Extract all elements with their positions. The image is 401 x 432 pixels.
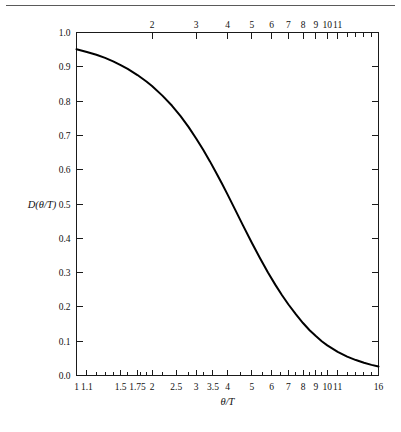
- debye-function-chart: 11.11.51.7522.533.5456789101116 23456789…: [0, 0, 401, 432]
- x-tick-label-top: 3: [194, 20, 199, 30]
- y-tick-label: 0.6: [59, 165, 71, 175]
- y-tick-label: 1.0: [59, 28, 71, 38]
- x-tick-label-top: 8: [301, 20, 306, 30]
- debye-curve-path: [77, 49, 379, 366]
- x-tick-label: 6: [269, 382, 274, 392]
- x-tick-label-top: 4: [225, 20, 230, 30]
- x-tick-label-top: 5: [249, 20, 254, 30]
- x-tick-label: 8: [301, 382, 306, 392]
- x-axis-bottom-ticks: [77, 370, 379, 376]
- x-tick-label: 11: [333, 382, 342, 392]
- x-tick-label: 1.1: [81, 382, 93, 392]
- y-tick-label: 0.1: [59, 337, 71, 347]
- x-tick-label-top: 10: [323, 20, 333, 30]
- y-tick-label: 0.9: [59, 62, 71, 72]
- x-tick-label: 3: [194, 382, 199, 392]
- x-axis-bottom-tick-labels: 11.11.51.7522.533.5456789101116: [74, 382, 383, 392]
- y-axis-title: D(θ/T): [27, 199, 57, 211]
- y-axis-tick-labels: 0.00.10.20.30.40.50.60.70.80.91.0: [59, 28, 71, 381]
- y-tick-label: 0.0: [59, 371, 71, 381]
- x-tick-label: 4: [225, 382, 230, 392]
- page-top-rule: [6, 5, 395, 6]
- y-tick-label: 0.8: [59, 97, 71, 107]
- y-tick-label: 0.7: [59, 131, 71, 141]
- x-axis-top-tick-labels: 234567891011: [150, 20, 343, 30]
- y-axis-right-ticks: [372, 67, 379, 341]
- y-tick-label: 0.5: [59, 200, 71, 210]
- x-tick-label-top: 7: [286, 20, 291, 30]
- x-tick-label: 2.5: [170, 382, 182, 392]
- y-tick-label: 0.4: [59, 234, 71, 244]
- x-tick-label-top: 2: [150, 20, 155, 30]
- x-tick-label-top: 11: [333, 20, 342, 30]
- data-curve: [77, 49, 379, 366]
- x-tick-label: 5: [249, 382, 254, 392]
- y-tick-label: 0.2: [59, 302, 71, 312]
- x-tick-label: 16: [374, 382, 384, 392]
- x-axis-top-ticks: [152, 33, 379, 39]
- x-tick-label: 1: [74, 382, 79, 392]
- x-tick-label: 1.5: [115, 382, 127, 392]
- x-tick-label-top: 6: [269, 20, 274, 30]
- figure-container: 11.11.51.7522.533.5456789101116 23456789…: [0, 0, 401, 432]
- x-tick-label: 1.75: [129, 382, 146, 392]
- x-tick-label-top: 9: [313, 20, 318, 30]
- x-axis-title: θ/T: [221, 396, 236, 407]
- y-axis-left-ticks: [77, 33, 83, 376]
- x-tick-label: 3.5: [207, 382, 219, 392]
- x-tick-label: 9: [313, 382, 318, 392]
- x-tick-label: 2: [150, 382, 155, 392]
- x-tick-label: 10: [323, 382, 333, 392]
- axes-frame: [77, 33, 379, 376]
- y-tick-label: 0.3: [59, 268, 71, 278]
- x-tick-label: 7: [286, 382, 291, 392]
